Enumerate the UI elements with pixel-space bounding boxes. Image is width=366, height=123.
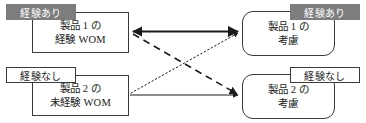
connector-p1wom-to-p2con <box>133 34 237 94</box>
node-label-line1: 製品 2 の <box>60 82 102 95</box>
node-label-line2: 経験 WOM <box>55 33 106 46</box>
node-label-line2: 考慮 <box>278 34 298 47</box>
tag-top-right-experienced: 経験あり <box>290 4 360 20</box>
tag-bottom-right-inexperienced: 経験なし <box>290 67 360 83</box>
node-label-line2: 未経験 WOM <box>50 96 111 109</box>
node-label-line1: 製品 1 の <box>60 19 102 32</box>
node-label-line1: 製品 1 の <box>268 20 310 33</box>
node-label-line2: 考慮 <box>278 97 298 110</box>
diagram-canvas: 製品 1 の 経験 WOM 製品 2 の 未経験 WOM 製品 1 の 考慮 製… <box>0 0 366 123</box>
tag-bottom-left-inexperienced: 経験なし <box>6 67 76 83</box>
tag-top-left-experienced: 経験あり <box>6 4 76 20</box>
node-label-line1: 製品 2 の <box>268 83 310 96</box>
